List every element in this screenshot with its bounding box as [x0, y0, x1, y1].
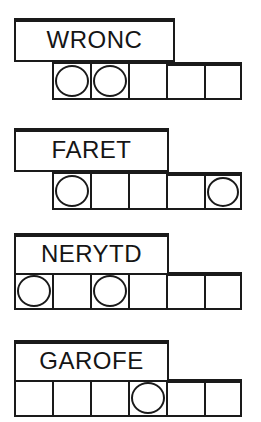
grid-cell[interactable]: [14, 379, 52, 417]
grid-cell-circled[interactable]: [90, 62, 128, 100]
word-box: FARET: [14, 128, 169, 172]
grid-cell[interactable]: [128, 62, 166, 100]
answer-grid: [52, 172, 242, 210]
grid-cell[interactable]: [90, 172, 128, 210]
word-label: GAROFE: [39, 349, 143, 373]
grid-cell[interactable]: [166, 62, 204, 100]
grid-cell[interactable]: [52, 272, 90, 310]
word-box: GAROFE: [14, 340, 169, 382]
word-box: WRONC: [14, 18, 175, 62]
grid-cell-circled[interactable]: [90, 272, 128, 310]
answer-grid: [52, 62, 242, 100]
grid-cell[interactable]: [204, 379, 242, 417]
grid-cell-circled[interactable]: [52, 62, 90, 100]
grid-cell-circled[interactable]: [14, 272, 52, 310]
grid-cell[interactable]: [128, 172, 166, 210]
grid-cell[interactable]: [166, 172, 204, 210]
grid-cell-circled[interactable]: [128, 379, 166, 417]
grid-cell[interactable]: [204, 272, 242, 310]
grid-cell[interactable]: [128, 272, 166, 310]
grid-cell[interactable]: [166, 272, 204, 310]
grid-cell[interactable]: [166, 379, 204, 417]
grid-cell-circled[interactable]: [204, 172, 242, 210]
answer-grid: [14, 379, 242, 417]
word-label: WRONC: [47, 28, 143, 52]
grid-cell-circled[interactable]: [52, 172, 90, 210]
answer-grid: [14, 272, 242, 310]
word-label: NERYTD: [41, 242, 142, 266]
grid-cell[interactable]: [90, 379, 128, 417]
grid-cell[interactable]: [204, 62, 242, 100]
word-box: NERYTD: [14, 233, 169, 275]
word-label: FARET: [52, 138, 132, 162]
grid-cell[interactable]: [52, 379, 90, 417]
